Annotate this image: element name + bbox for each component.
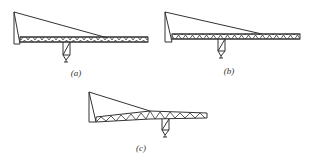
- jib-a: [20, 37, 148, 42]
- crane-a: [14, 12, 148, 62]
- tie-b: [165, 12, 262, 34]
- trolley-a: [63, 42, 70, 55]
- mast-c: [89, 92, 96, 122]
- jib-b: [172, 34, 300, 39]
- label-b: (b): [224, 66, 235, 76]
- hook-c: [162, 130, 169, 137]
- label-c: (c): [136, 143, 146, 153]
- trolley-c: [162, 119, 169, 130]
- hook-b: [218, 51, 225, 58]
- mast-a: [14, 12, 20, 44]
- tie-c: [89, 92, 150, 111]
- crane-figure: (a) (b) (c): [0, 0, 311, 164]
- hook-a: [63, 55, 70, 62]
- crane-b: [165, 12, 300, 58]
- trolley-b: [218, 39, 225, 51]
- mast-b: [165, 12, 172, 42]
- label-a: (a): [71, 68, 82, 78]
- crane-c: [89, 92, 207, 137]
- tie-a: [14, 12, 108, 38]
